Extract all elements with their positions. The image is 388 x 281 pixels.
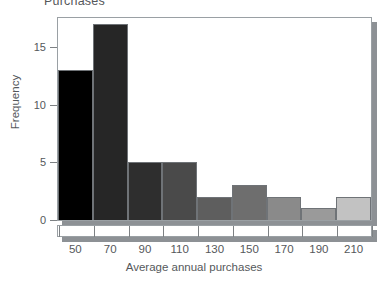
x-axis-tick xyxy=(163,226,164,237)
x-axis-tick xyxy=(59,226,60,237)
x-axis-tick xyxy=(372,226,373,237)
x-axis-tick xyxy=(233,226,234,237)
x-axis-tick xyxy=(337,226,338,237)
x-axis-tick xyxy=(198,226,199,237)
histogram-bar xyxy=(58,70,93,220)
y-axis-tick-label: 5 xyxy=(40,157,46,168)
x-axis-title: Average annual purchases xyxy=(0,261,388,273)
y-axis-tick xyxy=(50,162,57,163)
histogram-bar xyxy=(336,197,371,220)
y-axis-tick xyxy=(50,220,57,221)
y-axis-title: Frequency xyxy=(9,62,21,142)
x-axis-tick xyxy=(129,226,130,237)
histogram-bar xyxy=(93,24,128,220)
histogram-bar xyxy=(128,162,163,220)
y-axis-tick-label: 10 xyxy=(34,100,46,111)
x-axis-tick xyxy=(94,226,95,237)
x-axis-strip xyxy=(57,225,372,237)
histogram-bar xyxy=(232,185,267,220)
histogram-bar xyxy=(162,162,197,220)
chart-title: Purchases xyxy=(44,0,105,8)
histogram-figure: Purchases 051015 Frequency 5070901101301… xyxy=(0,0,388,281)
x-axis-tick xyxy=(268,226,269,237)
y-axis-tick-label: 0 xyxy=(40,215,46,226)
bars-container xyxy=(58,18,371,220)
histogram-bar xyxy=(301,208,336,220)
y-axis-tick xyxy=(50,47,57,48)
histogram-bar xyxy=(197,197,232,220)
y-axis-tick-label: 15 xyxy=(34,42,46,53)
x-axis-tick xyxy=(302,226,303,237)
histogram-bar xyxy=(267,197,302,220)
chart-title-clipped: Purchases xyxy=(0,0,388,11)
y-axis-tick xyxy=(50,105,57,106)
x-axis-tick-label: 210 xyxy=(334,243,374,255)
